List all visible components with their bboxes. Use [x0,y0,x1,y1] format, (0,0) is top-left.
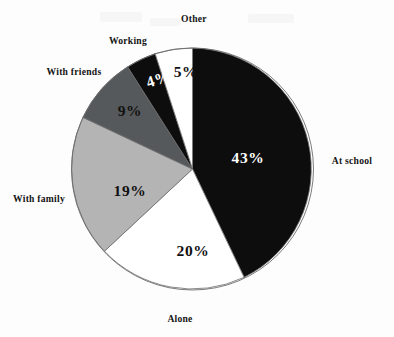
pie-chart: 43% 20% 19% 9% 4% 5% Other Working With … [0,0,394,337]
value-label-alone: 20% [177,242,210,259]
category-label-with-friends: With friends [47,66,102,77]
category-label-other: Other [181,13,207,24]
value-label-other: 5% [174,63,198,80]
category-label-at-school: At school [332,155,372,166]
value-label-with-family: 19% [114,182,147,199]
category-label-with-family: With family [13,193,65,204]
value-label-at-school: 43% [232,149,265,166]
category-label-alone: Alone [167,313,193,324]
pie-chart-canvas: 43% 20% 19% 9% 4% 5% Other Working With … [0,0,394,337]
value-label-with-friends: 9% [118,102,142,119]
category-label-working: Working [109,35,147,46]
